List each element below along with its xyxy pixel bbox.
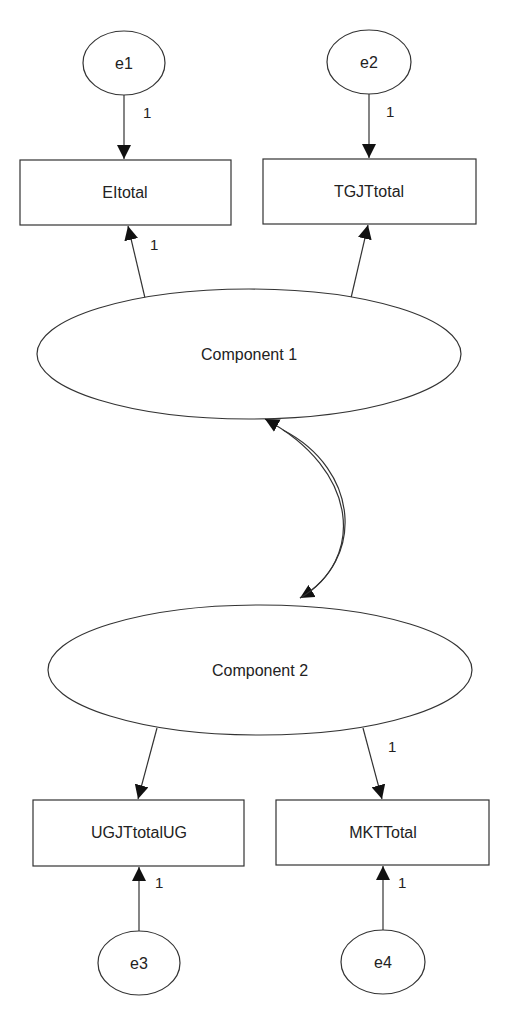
observed-node-mkttotal: MKTTotal (276, 800, 489, 865)
e3-label: e3 (130, 955, 148, 972)
ugjttotalug-label: UGJTtotalUG (91, 824, 187, 841)
latent-node-component-1: Component 1 (37, 289, 461, 419)
tgjttotal-label: TGJTtotal (334, 183, 404, 200)
error-node-e4: e4 (341, 930, 425, 994)
component-1-label: Component 1 (201, 346, 297, 363)
observed-node-tgjttotal: TGJTtotal (263, 159, 476, 224)
covariance-arc (283, 430, 345, 598)
observed-node-ugjttotalug: UGJTtotalUG (33, 800, 244, 866)
observed-node-eitotal: EItotal (20, 160, 231, 225)
edge-label-e2: 1 (386, 103, 394, 120)
mkttotal-label: MKTTotal (349, 824, 417, 841)
edge-label-e1: 1 (143, 104, 151, 121)
edge-label-e3: 1 (155, 874, 163, 891)
error-node-e3: e3 (98, 931, 180, 995)
edge-label-c1-eitotal: 1 (150, 236, 158, 253)
arrow-c2-ugjttotalug (138, 728, 157, 799)
latent-node-component-2: Component 2 (48, 605, 472, 735)
arrow-c1-tgjttotal (351, 225, 368, 298)
error-node-e1: e1 (83, 31, 165, 95)
eitotal-label: EItotal (102, 184, 147, 201)
path-diagram: e1 e2 1 1 EItotal TGJTtotal 1 Component … (0, 0, 518, 1027)
e4-label: e4 (374, 954, 392, 971)
error-node-e2: e2 (327, 30, 411, 94)
component-2-label: Component 2 (212, 662, 308, 679)
arrow-c1-eitotal (128, 226, 145, 298)
e2-label: e2 (360, 54, 378, 71)
e1-label: e1 (115, 55, 133, 72)
arrow-c2-mkttotal (363, 728, 382, 799)
covariance-arc-reverse (265, 419, 343, 598)
edge-label-e4: 1 (398, 874, 406, 891)
edge-label-c2-mkt: 1 (388, 738, 396, 755)
